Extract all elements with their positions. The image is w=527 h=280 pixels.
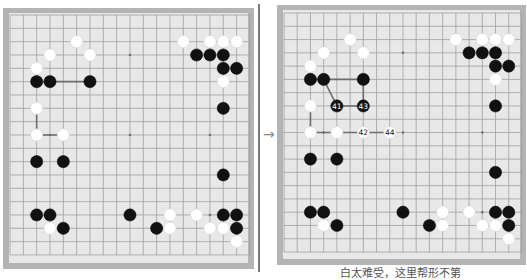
white-stone <box>318 219 330 231</box>
white-stone <box>71 36 83 48</box>
white-stone <box>204 222 216 234</box>
white-stone <box>489 33 501 45</box>
black-stone <box>231 222 243 234</box>
black-stone <box>331 219 343 231</box>
white-stone <box>204 36 216 48</box>
star-point <box>402 131 405 134</box>
star-point <box>129 54 132 57</box>
arrow-right-icon: → <box>263 127 275 141</box>
white-stone <box>476 219 488 231</box>
white-stone <box>231 36 243 48</box>
white-stone <box>304 100 316 112</box>
white-stone <box>44 49 56 61</box>
star-point <box>402 52 405 55</box>
black-stone <box>84 76 96 88</box>
black-stone <box>217 62 229 74</box>
black-stone <box>191 49 203 61</box>
white-stone <box>217 222 229 234</box>
black-stone <box>304 73 316 85</box>
black-stone <box>124 209 136 221</box>
black-stone <box>217 169 229 181</box>
black-stone <box>231 209 243 221</box>
white-stone <box>31 62 43 74</box>
star-point <box>209 214 212 217</box>
white-stone <box>437 219 449 231</box>
black-stone <box>489 166 501 178</box>
black-stone <box>204 49 216 61</box>
right-caption: 白太难受，这里帮形不第 <box>340 264 461 280</box>
black-stone <box>476 47 488 59</box>
white-stone <box>476 33 488 45</box>
white-stone <box>217 76 229 88</box>
black-stone <box>231 62 243 74</box>
black-stone <box>217 102 229 114</box>
white-stone <box>331 126 343 138</box>
black-stone <box>357 73 369 85</box>
black-stone <box>503 60 515 72</box>
black-stone <box>217 209 229 221</box>
white-stone: 42 <box>357 126 369 138</box>
black-stone <box>503 206 515 218</box>
white-stone <box>318 47 330 59</box>
white-stone <box>164 222 176 234</box>
right-board-canvas: 41424344 <box>277 5 526 265</box>
white-stone <box>57 129 69 141</box>
white-stone: 44 <box>384 126 396 138</box>
white-stone <box>231 236 243 248</box>
white-stone <box>44 222 56 234</box>
black-stone <box>31 156 43 168</box>
black-stone <box>489 100 501 112</box>
black-stone <box>397 206 409 218</box>
black-stone <box>489 60 501 72</box>
divider-line <box>258 4 260 272</box>
white-stone <box>304 60 316 72</box>
white-stone <box>450 33 462 45</box>
star-point <box>481 131 484 134</box>
black-stone <box>151 222 163 234</box>
white-stone <box>304 126 316 138</box>
black-stone <box>304 206 316 218</box>
white-stone <box>177 36 189 48</box>
white-stone <box>489 219 501 231</box>
black-stone <box>57 156 69 168</box>
right-go-board: 41424344 <box>277 5 526 265</box>
white-stone <box>489 73 501 85</box>
black-stone <box>489 47 501 59</box>
star-point <box>129 134 132 137</box>
left-board-canvas <box>3 8 254 269</box>
black-stone <box>463 47 475 59</box>
black-stone <box>331 153 343 165</box>
star-point <box>481 211 484 214</box>
black-stone <box>489 206 501 218</box>
black-stone: 43 <box>357 100 369 112</box>
move-number: 41 <box>332 102 342 111</box>
black-stone <box>31 209 43 221</box>
black-stone <box>318 73 330 85</box>
black-stone <box>217 49 229 61</box>
white-stone <box>503 33 515 45</box>
black-stone <box>31 76 43 88</box>
move-number: 44 <box>385 128 395 137</box>
white-stone <box>217 36 229 48</box>
white-stone <box>463 206 475 218</box>
black-stone <box>44 209 56 221</box>
black-stone <box>57 222 69 234</box>
white-stone <box>31 102 43 114</box>
white-stone <box>344 33 356 45</box>
black-stone <box>304 153 316 165</box>
black-stone <box>318 206 330 218</box>
white-stone <box>437 206 449 218</box>
move-number: 43 <box>359 102 369 111</box>
white-stone <box>503 233 515 245</box>
white-stone <box>357 47 369 59</box>
black-stone: 41 <box>331 100 343 112</box>
white-stone <box>84 49 96 61</box>
white-stone <box>191 209 203 221</box>
move-number: 42 <box>359 128 369 137</box>
left-go-board <box>3 8 254 269</box>
white-stone <box>164 209 176 221</box>
black-stone <box>423 219 435 231</box>
black-stone <box>44 76 56 88</box>
star-point <box>209 134 212 137</box>
white-stone <box>31 129 43 141</box>
